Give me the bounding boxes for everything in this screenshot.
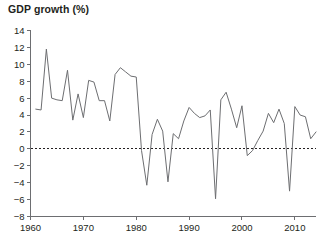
y-axis-tick-label: 0 bbox=[19, 143, 24, 154]
x-axis-tick-label: 1970 bbox=[73, 222, 94, 233]
y-axis-tick-label: 2 bbox=[19, 126, 24, 137]
y-axis: −8−6−4−202468101214 bbox=[14, 25, 31, 222]
y-axis-tick-label: 12 bbox=[14, 42, 25, 53]
y-axis-tick-label: −6 bbox=[14, 194, 25, 205]
gdp-growth-line-chart: −8−6−4−202468101214 19601970198019902000… bbox=[0, 0, 321, 250]
x-axis-tick-label: 1990 bbox=[179, 222, 200, 233]
x-axis-tick-label: 1980 bbox=[126, 222, 147, 233]
x-axis-tick-label: 1960 bbox=[20, 222, 41, 233]
x-axis-tick-label: 2000 bbox=[231, 222, 252, 233]
x-axis-tick-label: 2010 bbox=[284, 222, 305, 233]
y-axis-tick-label: 14 bbox=[14, 25, 25, 36]
y-axis-tick-label: 6 bbox=[19, 93, 24, 104]
y-axis-tick-label: 4 bbox=[19, 109, 24, 120]
x-axis: 196019701980199020002010 bbox=[20, 217, 316, 233]
y-axis-tick-label: 10 bbox=[14, 59, 25, 70]
y-axis-tick-label: −4 bbox=[14, 177, 25, 188]
chart-container: GDP growth (%) −8−6−4−202468101214 19601… bbox=[0, 0, 321, 250]
y-axis-tick-label: −8 bbox=[14, 211, 25, 222]
y-axis-tick-label: −2 bbox=[14, 160, 25, 171]
y-axis-tick-label: 8 bbox=[19, 76, 24, 87]
gdp-growth-series-line bbox=[36, 49, 316, 199]
